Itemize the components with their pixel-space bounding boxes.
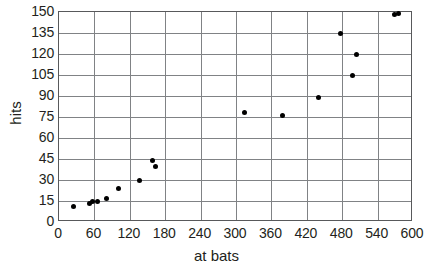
data-point xyxy=(116,186,121,191)
data-point xyxy=(354,52,359,57)
data-point xyxy=(396,11,401,16)
gridline-vertical xyxy=(271,12,272,220)
y-tick-label: 105 xyxy=(2,67,54,81)
data-point xyxy=(104,196,109,201)
gridline-vertical xyxy=(378,12,379,220)
gridline-vertical xyxy=(165,12,166,220)
gridline-vertical xyxy=(130,12,131,220)
data-point xyxy=(71,204,76,209)
x-axis-title: at bats xyxy=(0,248,433,264)
data-point xyxy=(137,178,142,183)
y-tick-label: 150 xyxy=(2,4,54,18)
gridline-horizontal xyxy=(59,159,411,160)
gridline-horizontal xyxy=(59,138,411,139)
y-axis-title: hits xyxy=(8,83,24,143)
plot-area xyxy=(58,11,412,221)
gridline-horizontal xyxy=(59,33,411,34)
y-tick-label: 120 xyxy=(2,46,54,60)
gridline-horizontal xyxy=(59,180,411,181)
scatter-chart: 0153045607590105120135150 06012018024030… xyxy=(0,0,433,275)
data-point xyxy=(350,73,355,78)
y-tick-label: 15 xyxy=(2,193,54,207)
data-point xyxy=(280,113,285,118)
data-point xyxy=(316,95,321,100)
gridline-vertical xyxy=(236,12,237,220)
data-point xyxy=(153,164,158,169)
gridline-horizontal xyxy=(59,75,411,76)
gridline-vertical xyxy=(94,12,95,220)
gridline-vertical xyxy=(201,12,202,220)
x-axis-tick-labels: 060120180240300360420480540600 xyxy=(0,226,433,246)
gridline-horizontal xyxy=(59,96,411,97)
data-point xyxy=(242,110,247,115)
gridline-horizontal xyxy=(59,201,411,202)
gridline-vertical xyxy=(307,12,308,220)
data-point xyxy=(90,199,95,204)
y-tick-label: 45 xyxy=(2,151,54,165)
data-point xyxy=(95,199,100,204)
x-tick-label: 600 xyxy=(389,226,433,240)
data-point xyxy=(338,31,343,36)
y-tick-label: 30 xyxy=(2,172,54,186)
gridline-horizontal xyxy=(59,117,411,118)
y-tick-label: 135 xyxy=(2,25,54,39)
gridline-vertical xyxy=(342,12,343,220)
data-point xyxy=(150,158,155,163)
